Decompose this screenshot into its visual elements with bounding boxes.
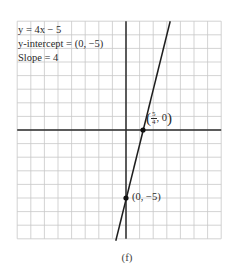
x-intercept-point [140,127,145,132]
y-intercept-info: y-intercept = (0, −5) [18,37,103,50]
y-intercept-label: (0, −5) [132,191,161,202]
y-intercept-point [123,195,128,200]
slope-info: Slope = 4 [18,51,58,64]
figure-caption: (f) [0,251,245,263]
equation-label: y = 4x − 5 [18,23,61,36]
x-intercept-label: (54, 0) [146,110,172,127]
